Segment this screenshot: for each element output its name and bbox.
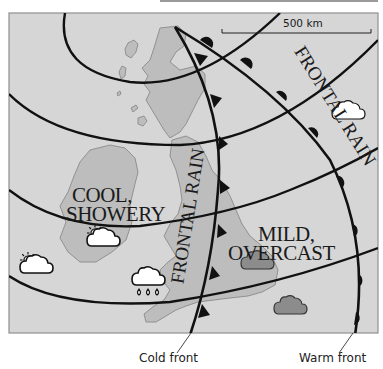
scale-bar-label: 500 km [283,17,323,29]
region-label-cool-showery: COOL, SHOWERY [66,186,165,224]
warm-front-caption: Warm front [299,351,366,365]
region-line: SHOWERY [66,205,165,224]
region-label-mild-overcast: MILD, OVERCAST [228,225,335,263]
cold-front-leader [177,333,191,353]
region-line: OVERCAST [228,244,335,263]
cold-front-caption: Cold front [139,351,198,365]
warm-front-leader [339,333,353,353]
